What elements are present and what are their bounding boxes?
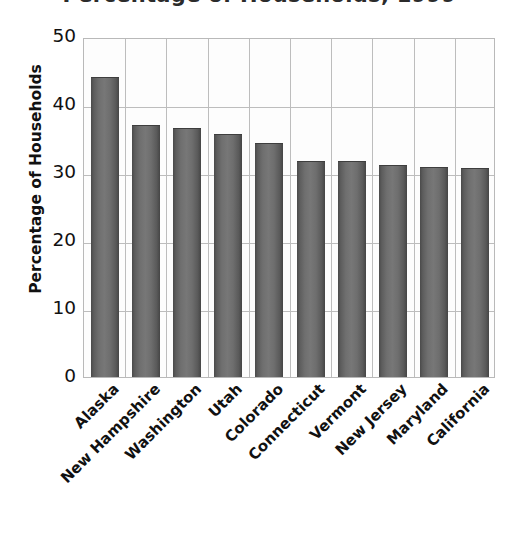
bar-slot — [166, 39, 207, 377]
bar-maryland — [420, 167, 448, 377]
bar-slot — [372, 39, 413, 377]
bar-slot — [455, 39, 496, 377]
bar-alaska — [91, 77, 119, 377]
bar-new-jersey — [379, 165, 407, 377]
bar-washington — [173, 128, 201, 377]
bar-slot — [331, 39, 372, 377]
bar-slot — [290, 39, 331, 377]
bar-new-hampshire — [132, 125, 160, 377]
y-tick-label-10: 10 — [16, 299, 76, 318]
bar-slot — [125, 39, 166, 377]
bar-california — [461, 168, 489, 377]
y-tick-label-50: 50 — [16, 27, 76, 46]
plot-area — [83, 38, 495, 378]
bar-connecticut — [297, 161, 325, 377]
bar-vermont — [338, 161, 366, 377]
chart-figure: Percentage of Households, 1999 Percentag… — [0, 0, 519, 535]
y-tick-label-0: 0 — [16, 367, 76, 386]
bar-slot — [84, 39, 125, 377]
bar-utah — [214, 134, 242, 377]
bar-slot — [414, 39, 455, 377]
x-axis-tick-labels: AlaskaNew HampshireWashingtonUtahColorad… — [83, 380, 495, 530]
y-tick-label-20: 20 — [16, 231, 76, 250]
bar-colorado — [255, 143, 283, 377]
bar-slot — [208, 39, 249, 377]
y-tick-label-40: 40 — [16, 95, 76, 114]
bar-slot — [249, 39, 290, 377]
y-tick-label-30: 30 — [16, 163, 76, 182]
